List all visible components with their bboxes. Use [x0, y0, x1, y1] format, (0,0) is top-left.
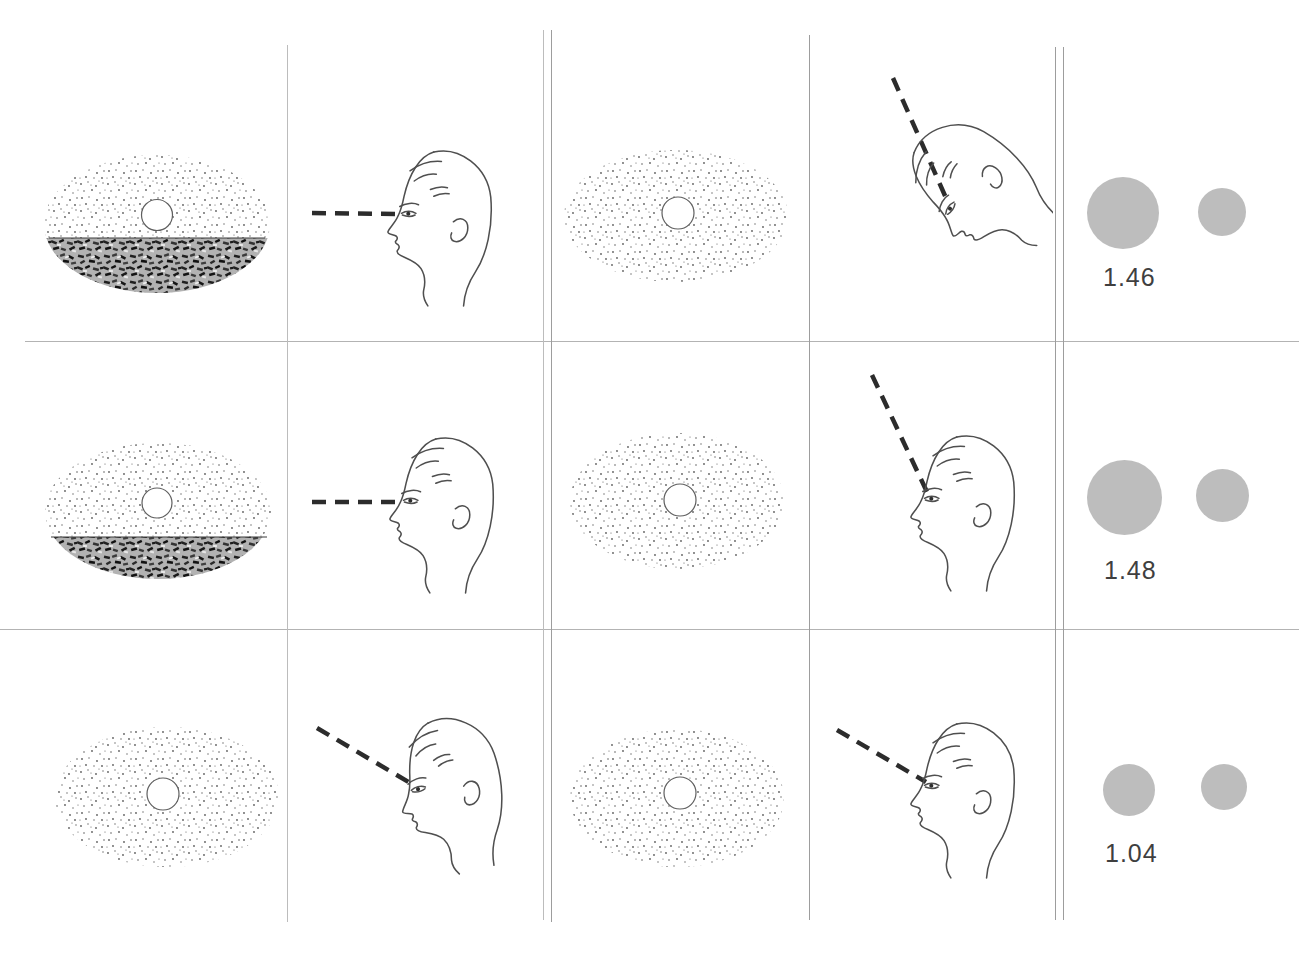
face-profile-level: [390, 438, 493, 593]
small-disc: [1201, 764, 1247, 810]
column-divider-4b: [1063, 47, 1064, 920]
cell-r1-elevated-moon-stimulus: [556, 45, 808, 341]
column-divider-2a: [543, 30, 544, 920]
cell-r2-observer-eyes-raised: [815, 346, 1053, 628]
sight-line: [893, 78, 946, 198]
moon-disc: [664, 484, 696, 516]
moon-illusion-figure: 1.46: [0, 0, 1299, 954]
cell-r1-observer-level-gaze: [292, 45, 540, 341]
moon-disc: [142, 200, 173, 231]
sight-line: [837, 730, 926, 782]
face-profile-eyes-raised: [911, 436, 1014, 591]
cell-r3-elevated-moon-stimulus-2: [556, 633, 808, 920]
sight-line: [872, 375, 927, 492]
cell-r2-comparison-discs: 1.48: [1065, 346, 1299, 628]
small-disc: [1196, 469, 1249, 522]
face-profile-tilted-back: [887, 105, 1053, 279]
moon-disc: [142, 488, 172, 518]
column-divider-1: [287, 45, 288, 922]
column-divider-3: [809, 35, 810, 920]
cell-r2-observer-level-gaze: [292, 346, 540, 628]
cell-r3-observer-gaze-raised: [815, 633, 1053, 920]
face-profile-slight-tilt: [383, 708, 521, 883]
sight-line: [317, 728, 412, 784]
cell-r3-observer-slight-tilt: [292, 633, 540, 920]
moon-disc: [664, 777, 696, 809]
ratio-value: 1.48: [1104, 556, 1157, 585]
cell-r2-elevated-moon-stimulus: [556, 346, 808, 628]
cell-r1-observer-head-tilted-back: [815, 45, 1053, 341]
moon-disc: [147, 778, 179, 810]
large-disc: [1087, 177, 1159, 249]
row-divider-2: [0, 629, 1299, 630]
column-divider-4a: [1055, 47, 1056, 920]
ratio-value: 1.04: [1105, 839, 1158, 868]
large-disc: [1103, 764, 1155, 816]
small-disc: [1198, 188, 1246, 236]
large-disc: [1087, 460, 1162, 535]
cell-r1-comparison-discs: 1.46: [1065, 45, 1299, 341]
face-profile-gaze-raised: [911, 723, 1014, 878]
cell-r3-comparison-discs: 1.04: [1065, 633, 1299, 920]
column-divider-2b: [551, 30, 552, 922]
sight-line: [312, 213, 402, 214]
ratio-value: 1.46: [1103, 263, 1156, 292]
cell-r2-horizon-moon-stimulus: [25, 346, 287, 628]
cell-r3-elevated-moon-stimulus: [25, 633, 287, 920]
face-profile-level: [388, 151, 491, 306]
cell-r1-horizon-moon-stimulus: [25, 45, 287, 345]
moon-disc: [662, 197, 694, 229]
